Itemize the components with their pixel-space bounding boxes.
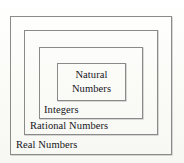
set-label-integers: Integers bbox=[44, 103, 79, 116]
set-label-rational-numbers: Rational Numbers bbox=[30, 119, 108, 132]
number-sets-diagram: Natural Numbers Integers Rational Number… bbox=[0, 0, 184, 163]
set-label-real-numbers: Real Numbers bbox=[16, 138, 78, 151]
set-label-natural-numbers-line-1: Natural bbox=[57, 68, 126, 82]
set-label-natural-numbers-line-2: Numbers bbox=[57, 82, 126, 96]
set-label-natural-numbers: Natural Numbers bbox=[57, 68, 126, 95]
